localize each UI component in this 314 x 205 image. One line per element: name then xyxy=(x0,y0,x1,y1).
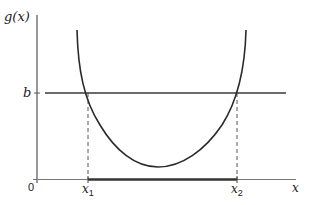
y-axis-label: g(x) xyxy=(4,9,30,24)
g-curve xyxy=(77,30,246,167)
x1-label: x1 xyxy=(82,182,94,198)
origin-label: 0 xyxy=(28,181,34,193)
diagram-canvas: g(x) b 0 x1 x2 x xyxy=(0,0,314,205)
x2-label: x2 xyxy=(231,182,243,198)
x-axis-label: x xyxy=(292,181,299,195)
b-label: b xyxy=(23,85,31,100)
diagram-svg: g(x) b 0 x1 x2 x xyxy=(0,0,314,205)
